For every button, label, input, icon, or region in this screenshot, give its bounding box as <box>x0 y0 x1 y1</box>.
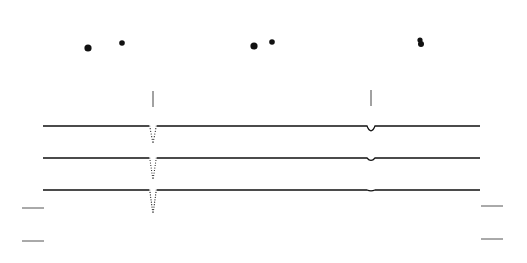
spike-dot <box>155 194 156 195</box>
spike-dot <box>151 167 152 168</box>
spike-dot <box>149 192 150 193</box>
spike-dot <box>152 209 153 210</box>
stimulus-dot <box>418 41 424 47</box>
trace-figure <box>0 0 527 263</box>
spike-dot <box>154 202 155 203</box>
signal-trace <box>43 190 480 191</box>
spike-dot <box>154 133 155 134</box>
spike-dot <box>153 211 154 212</box>
spike-dot <box>154 204 155 205</box>
spike-dot <box>151 172 152 173</box>
spike-dot <box>150 197 151 198</box>
spike-dot <box>155 197 156 198</box>
scale-bars <box>22 206 503 241</box>
spike-dot <box>149 160 150 161</box>
spike-dot <box>151 170 152 171</box>
spike-dot <box>154 136 155 137</box>
spike-dot <box>150 128 151 129</box>
spike-dot <box>151 202 152 203</box>
spike-dot <box>149 157 150 158</box>
spike-dot <box>150 131 151 132</box>
stimulus-dot <box>250 42 257 49</box>
spike-dot <box>155 131 156 132</box>
spike-dot <box>150 194 151 195</box>
event-markers <box>153 90 371 107</box>
spike-dot <box>156 189 157 190</box>
spike-dot <box>150 162 151 163</box>
spike-dot <box>153 207 154 208</box>
spike-dot <box>155 165 156 166</box>
spike-dot <box>153 172 154 173</box>
spike-dot <box>153 175 154 176</box>
spike-dot <box>150 165 151 166</box>
spike-dot <box>153 209 154 210</box>
spike-dot <box>153 141 154 142</box>
spike-dot <box>154 199 155 200</box>
stimulus-dot <box>84 44 91 51</box>
spike-dot <box>151 204 152 205</box>
spike-dot <box>155 160 156 161</box>
spike-dot <box>151 136 152 137</box>
signal-trace <box>43 158 480 160</box>
spike-dot <box>155 192 156 193</box>
spike-dot <box>152 175 153 176</box>
spike-dot <box>149 189 150 190</box>
spike-dot <box>155 128 156 129</box>
spike-dot <box>154 170 155 171</box>
signal-trace <box>43 126 480 131</box>
spike-dot <box>152 139 153 140</box>
spike-dot <box>155 162 156 163</box>
spike-dot <box>149 125 150 126</box>
signal-traces <box>43 125 480 212</box>
spike-dot <box>153 177 154 178</box>
stimulus-dot <box>119 40 125 46</box>
spike-dot <box>154 167 155 168</box>
spike-dot <box>156 125 157 126</box>
spike-dot <box>156 157 157 158</box>
stimulus-dots <box>84 37 424 51</box>
spike-dot <box>151 133 152 134</box>
spike-dot <box>153 139 154 140</box>
spike-dot <box>151 207 152 208</box>
spike-dot <box>150 199 151 200</box>
stimulus-dot <box>269 39 275 45</box>
